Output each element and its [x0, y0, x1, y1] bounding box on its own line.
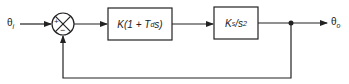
plus-sign: + [54, 17, 59, 26]
output-label: θo [331, 16, 340, 29]
minus-sign: − [60, 25, 65, 35]
input-label: θi [7, 17, 14, 30]
takeoff-point [289, 21, 294, 26]
plant-transfer-function: Ks/s2 [214, 7, 258, 39]
block-diagram [0, 0, 349, 84]
controller-transfer-function: K(1 + Tds) [108, 8, 172, 40]
